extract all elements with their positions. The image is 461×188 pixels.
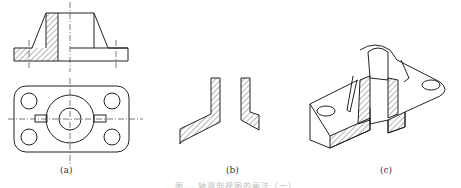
label-a: (a): [60, 165, 72, 175]
isometric-view: [310, 45, 445, 148]
label-b: (b): [226, 165, 239, 175]
front-section-view: [14, 2, 128, 72]
figure-caption: 图 ·· 轴测剖视图的画法（一）: [175, 180, 297, 188]
drawing-canvas: [0, 0, 461, 188]
label-c: (c): [380, 165, 392, 175]
top-view: [8, 78, 143, 164]
section-profiles: [180, 78, 259, 144]
